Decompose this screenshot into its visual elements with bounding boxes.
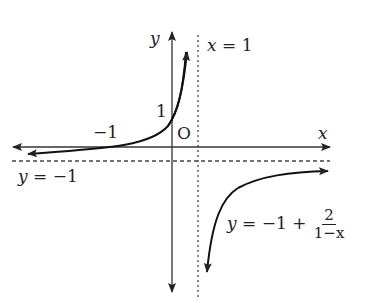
function-fraction: 2 1−x: [314, 208, 345, 241]
y-tick-one: 1: [156, 103, 167, 120]
curve-right-branch: [238, 171, 328, 188]
origin-label: O: [177, 125, 191, 142]
vertical-asymptote-label: x = 1: [207, 37, 252, 54]
graph-canvas: [0, 0, 370, 300]
horizontal-asymptote-label: y = −1: [18, 168, 78, 185]
x-tick-neg-one: −1: [93, 124, 118, 141]
x-axis-label: x: [318, 125, 328, 142]
function-label: y = −1 + 2 1−x: [227, 208, 344, 241]
y-axis-label: y: [150, 30, 160, 47]
function-graph-diagram: y x O 1 −1 x = 1 y = −1 y = −1 + 2 1−x: [0, 0, 370, 300]
